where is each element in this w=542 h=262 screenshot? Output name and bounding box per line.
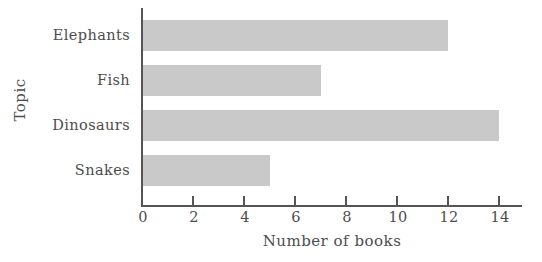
plot-area [142,8,522,206]
y-axis-tick-label: Fish [97,65,130,96]
x-axis-tick [141,196,143,206]
x-axis-tick-label: 12 [434,209,464,225]
x-axis-tick [192,196,194,206]
bar-chart: Topic ElephantsFishDinosaursSnakes 02468… [0,0,542,262]
bar [142,110,499,141]
x-axis-title: Number of books [142,232,522,250]
y-axis-tick-label: Elephants [53,20,130,51]
x-axis-line [141,205,522,207]
bar [142,20,448,51]
x-axis-tick-label: 10 [383,209,413,225]
x-axis-tick-label: 4 [230,209,260,225]
x-axis-tick-label: 14 [485,209,515,225]
bar [142,65,321,96]
x-axis-tick [447,196,449,206]
y-axis-tick-label: Snakes [75,155,130,186]
y-axis-line [141,8,143,207]
x-axis-tick [345,196,347,206]
x-axis-tick-label: 0 [128,209,158,225]
x-axis-tick [294,196,296,206]
x-axis-tick-label: 2 [179,209,209,225]
bar [142,155,270,186]
x-axis-tick-label: 6 [281,209,311,225]
x-axis-tick-label: 8 [332,209,362,225]
x-axis-tick [396,196,398,206]
y-axis-tick-label: Dinosaurs [52,110,130,141]
x-axis-tick [243,196,245,206]
x-axis-tick [498,196,500,206]
y-axis-tick-labels: ElephantsFishDinosaursSnakes [24,8,136,206]
